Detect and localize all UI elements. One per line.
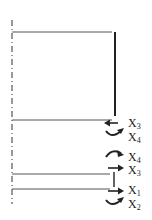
curved-arrow-icon bbox=[106, 197, 124, 204]
arrow-right-icon bbox=[108, 188, 124, 195]
label-x2: X2 bbox=[128, 198, 141, 214]
curved-arrow-icon bbox=[106, 128, 124, 135]
label-x3: X3 bbox=[128, 164, 141, 180]
arrow-left-icon bbox=[104, 120, 118, 127]
curved-arrow-icon bbox=[106, 150, 124, 157]
arrow-right-icon bbox=[108, 165, 124, 172]
label-x4: X4 bbox=[128, 131, 141, 147]
